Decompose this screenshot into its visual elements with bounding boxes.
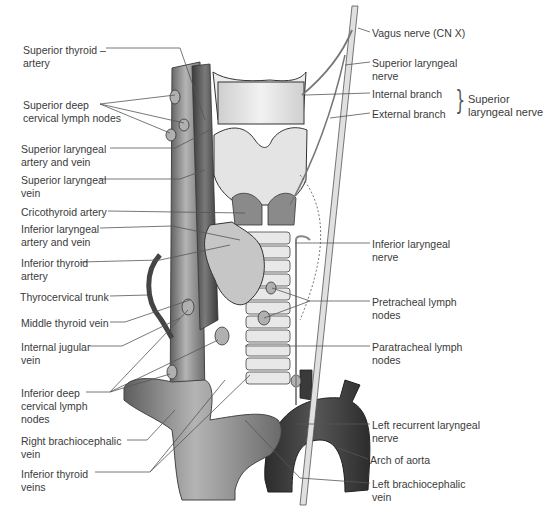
label-inferior-laryngeal-artery-and-vein: Inferior laryngeal artery and vein <box>21 223 99 249</box>
label-internal-jugular-vein: Internal jugular vein <box>21 341 90 367</box>
label-superior-laryngeal-nerve: Superior laryngeal nerve <box>372 57 457 83</box>
brace-icon: } <box>455 87 465 113</box>
label-inferior-thyroid-veins: Inferior thyroid veins <box>21 468 88 494</box>
label-superior-laryngeal-nerve-group: Superior laryngeal nerve <box>468 93 543 119</box>
label-inferior-thyroid-artery: Inferior thyroid artery <box>21 257 88 283</box>
label-superior-laryngeal-artery-and-vein: Superior laryngeal artery and vein <box>21 143 106 169</box>
label-external-branch: External branch <box>372 108 446 121</box>
thyrocervical-trunk-shape <box>149 255 172 338</box>
label-right-brachiocephalic-vein: Right brachiocephalic vein <box>21 435 121 461</box>
label-inferior-deep-cervical-lymph-nodes: Inferior deep cervical lymph nodes <box>21 387 88 426</box>
label-arch-of-aorta: Arch of aorta <box>370 454 430 467</box>
label-internal-branch: Internal branch <box>372 88 442 101</box>
label-superior-thyroid-artery: Superior thyroid – artery <box>23 44 106 70</box>
label-superior-laryngeal-vein: Superior laryngeal vein <box>21 174 106 200</box>
label-left-brachiocephalic-vein: Left brachiocephalic vein <box>372 478 465 504</box>
label-inferior-laryngeal-nerve: Inferior laryngeal nerve <box>372 238 450 264</box>
label-left-recurrent-laryngeal-nerve: Left recurrent laryngeal nerve <box>372 419 480 445</box>
larynx-shape <box>213 72 307 225</box>
label-superior-deep-cervical-lymph-nodes: Superior deep cervical lymph nodes <box>23 99 121 125</box>
label-vagus-nerve: Vagus nerve (CN X) <box>372 27 465 40</box>
label-middle-thyroid-vein: Middle thyroid vein <box>21 317 109 330</box>
label-thyrocervical-trunk: Thyrocervical trunk <box>20 291 109 304</box>
label-paratracheal-lymph-nodes: Paratracheal lymph nodes <box>372 341 462 367</box>
label-cricothyroid-artery: Cricothyroid artery <box>21 206 107 219</box>
label-pretracheal-lymph-nodes: Pretracheal lymph nodes <box>372 296 457 322</box>
